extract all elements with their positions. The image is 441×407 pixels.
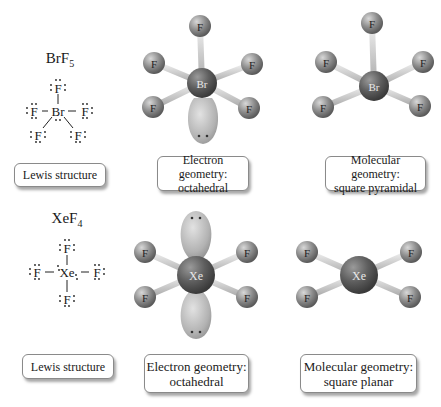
- lone-pair-lobe-top: [181, 211, 212, 258]
- svg-text:F: F: [323, 57, 329, 69]
- svg-text:F: F: [244, 247, 250, 259]
- lewis-structure-label-xef4: Lewis structure: [22, 354, 114, 379]
- svg-text:F: F: [320, 102, 326, 114]
- electron-geometry-model-xef4: Xe F F F F: [134, 211, 258, 339]
- electron-geometry-model-brf5: Br F F F F F: [142, 15, 263, 144]
- svg-text:F: F: [142, 247, 148, 259]
- svg-text:F: F: [150, 102, 156, 114]
- svg-text:F: F: [93, 265, 100, 280]
- lewis-structure-xef4: F Xe F F F: [29, 239, 105, 307]
- svg-text:F: F: [420, 57, 426, 69]
- svg-text:F: F: [30, 104, 37, 119]
- svg-text:F: F: [142, 292, 148, 304]
- electron-geometry-label-xef4: Electron geometry: octahedral: [144, 354, 249, 393]
- svg-text:F: F: [197, 21, 203, 33]
- svg-text:Xe: Xe: [59, 265, 74, 280]
- svg-text:Xe: Xe: [352, 269, 366, 283]
- molecular-geometry-model-brf5: Br F F F F F: [312, 12, 434, 118]
- electron-geometry-label-brf5: Electron geometry: octahedral: [157, 156, 249, 191]
- lewis-structure-brf5: F Br F F F F: [26, 79, 93, 143]
- svg-text:F: F: [417, 101, 423, 113]
- svg-text:Br: Br: [197, 78, 208, 90]
- svg-text:F: F: [244, 292, 250, 304]
- svg-text:F: F: [369, 18, 375, 30]
- svg-text:F: F: [63, 241, 70, 256]
- svg-text:Br: Br: [52, 104, 66, 119]
- lewis-structure-label-brf5: Lewis structure: [14, 163, 106, 187]
- svg-text:F: F: [34, 128, 41, 143]
- molecular-geometry-model-xef4: Xe F F F F: [296, 241, 422, 308]
- svg-text:F: F: [304, 247, 310, 259]
- svg-text:F: F: [54, 81, 61, 96]
- svg-text:F: F: [63, 292, 70, 307]
- lone-pair-lobe-bottom: [181, 292, 212, 339]
- lone-pair-lobe: [188, 98, 218, 144]
- svg-text:F: F: [74, 128, 81, 143]
- svg-text:F: F: [246, 103, 252, 115]
- svg-text:F: F: [249, 59, 255, 71]
- svg-text:F: F: [151, 58, 157, 70]
- svg-text:Xe: Xe: [189, 269, 203, 283]
- svg-text:F: F: [408, 247, 414, 259]
- molecule-diagrams: F Br F F F F: [0, 0, 441, 407]
- svg-text:F: F: [81, 104, 88, 119]
- svg-text:F: F: [33, 265, 40, 280]
- svg-text:F: F: [304, 292, 310, 304]
- molecular-geometry-label-xef4: Molecular geometry: square planar: [300, 354, 417, 393]
- svg-text:F: F: [407, 292, 413, 304]
- svg-text:Br: Br: [369, 81, 380, 93]
- molecular-geometry-label-brf5: Molecular geometry: square pyramidal: [325, 156, 426, 191]
